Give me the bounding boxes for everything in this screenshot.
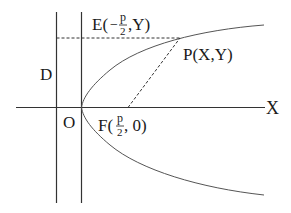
label-origin: O — [63, 113, 75, 132]
label-e-den: 2 — [120, 25, 126, 37]
parabola-diagram: D O X P(X,Y) E( − p 2 ,Y) F( p 2 , 0) — [0, 0, 291, 213]
label-e-num: p — [120, 10, 126, 24]
label-e-sign: − — [110, 17, 118, 32]
dashed-line-fp — [128, 38, 180, 108]
label-f-prefix: F( — [98, 116, 113, 135]
label-f-num: p — [117, 111, 123, 125]
label-e-suffix: ,Y) — [128, 15, 150, 34]
label-point-f: F( p 2 , 0) — [98, 111, 147, 138]
label-e-prefix: E( — [92, 15, 108, 34]
label-point-p: P(X,Y) — [183, 45, 233, 64]
label-point-e: E( − p 2 ,Y) — [92, 10, 150, 37]
label-directrix: D — [40, 65, 52, 84]
label-f-suffix: , 0) — [124, 116, 147, 135]
label-f-den: 2 — [117, 126, 123, 138]
label-x-axis: X — [266, 98, 279, 118]
parabola-curve — [82, 25, 265, 195]
